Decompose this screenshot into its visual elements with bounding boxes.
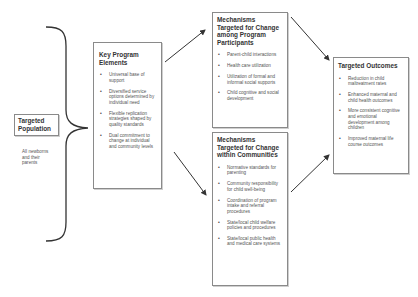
population-description: All newborns and their parents bbox=[22, 149, 48, 166]
arrow-participants-to-outcomes bbox=[291, 17, 329, 60]
list-item: Community responsibility for child well-… bbox=[217, 181, 283, 192]
arrow-key-to-participants bbox=[165, 30, 205, 62]
list-item: Normative standards for parenting bbox=[217, 165, 283, 176]
mechanisms-communities-box: Mechanisms Targeted for Change within Co… bbox=[212, 132, 288, 286]
list-item: Coordination of program intake and refer… bbox=[217, 198, 283, 215]
key-program-elements-box: Key Program Elements Universal base of s… bbox=[93, 42, 162, 189]
key-elements-list: Universal base of support Diversified se… bbox=[99, 72, 156, 149]
mechanisms-participants-box: Mechanisms Targeted for Change among Pro… bbox=[212, 12, 288, 128]
list-item: Universal base of support bbox=[99, 72, 156, 83]
list-item: State/local child welfare policies and p… bbox=[217, 220, 283, 231]
targeted-population-box: Targeted Population bbox=[14, 114, 59, 136]
mechanisms-participants-list: Parent-child interactions Health care ut… bbox=[217, 52, 283, 101]
key-elements-title: Key Program Elements bbox=[99, 51, 156, 66]
list-item: Flexible replication strategies shaped b… bbox=[99, 111, 156, 128]
list-item: Reduction in child maltreatment rates bbox=[338, 76, 404, 87]
list-item: Child cognitive and social development bbox=[217, 90, 283, 101]
list-item: Utilization of formal and informal socia… bbox=[217, 74, 283, 85]
mechanisms-participants-title: Mechanisms Targeted for Change among Pro… bbox=[217, 16, 283, 46]
list-item: Dual commitment to change at individual … bbox=[99, 133, 156, 150]
list-item: Improved maternal life course outcomes bbox=[338, 136, 404, 147]
list-item: Enhanced maternal and child health outco… bbox=[338, 92, 404, 103]
outcomes-title: Targeted Outcomes bbox=[338, 62, 404, 70]
population-title: Targeted Population bbox=[18, 117, 55, 132]
outcomes-list: Reduction in child maltreatment rates En… bbox=[338, 76, 404, 148]
arrow-communities-to-outcomes bbox=[291, 155, 329, 192]
arrow-key-to-communities bbox=[174, 152, 206, 195]
mechanisms-communities-list: Normative standards for parenting Commun… bbox=[217, 165, 283, 247]
list-item: More consistent cognitive and emotional … bbox=[338, 108, 404, 130]
list-item: Diversified service options determined b… bbox=[99, 89, 156, 106]
list-item: State/local public health and medical ca… bbox=[217, 236, 283, 247]
targeted-outcomes-box: Targeted Outcomes Reduction in child mal… bbox=[333, 57, 409, 174]
mechanisms-communities-title: Mechanisms Targeted for Change within Co… bbox=[217, 136, 283, 159]
list-item: Health care utilization bbox=[217, 63, 283, 69]
list-item: Parent-child interactions bbox=[217, 52, 283, 58]
